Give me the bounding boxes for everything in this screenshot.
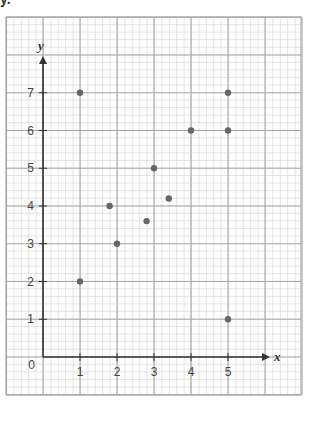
data-point xyxy=(188,127,194,133)
data-point xyxy=(77,278,83,284)
y-tick-label: 5 xyxy=(27,161,34,175)
data-point xyxy=(225,316,231,322)
data-point xyxy=(151,165,157,171)
y-axis-label: y xyxy=(36,38,44,53)
data-point xyxy=(114,241,120,247)
data-point xyxy=(106,203,112,209)
x-tick-label: 1 xyxy=(77,365,84,379)
data-point xyxy=(143,218,149,224)
data-point xyxy=(166,195,172,201)
x-axis-label: x xyxy=(273,349,281,364)
data-point xyxy=(77,90,83,96)
data-point xyxy=(225,127,231,133)
y-tick-label: 6 xyxy=(27,124,34,138)
x-tick-label: 4 xyxy=(188,365,195,379)
major-grid xyxy=(6,17,302,395)
x-tick-label: 5 xyxy=(225,365,232,379)
data-point xyxy=(225,90,231,96)
y-tick-label: 3 xyxy=(27,237,34,251)
y-tick-label: 1 xyxy=(27,312,34,326)
x-tick-label: 3 xyxy=(151,365,158,379)
y-tick-label: 7 xyxy=(27,86,34,100)
x-tick-label: 2 xyxy=(114,365,121,379)
scatter-chart: 1234512345670xy xyxy=(0,0,316,429)
x-axis-arrow-icon xyxy=(262,353,270,361)
y-tick-label: 4 xyxy=(27,199,34,213)
origin-label: 0 xyxy=(28,358,35,372)
tick-marks xyxy=(39,93,228,361)
y-axis-arrow-icon xyxy=(39,56,47,64)
y-tick-label: 2 xyxy=(27,275,34,289)
